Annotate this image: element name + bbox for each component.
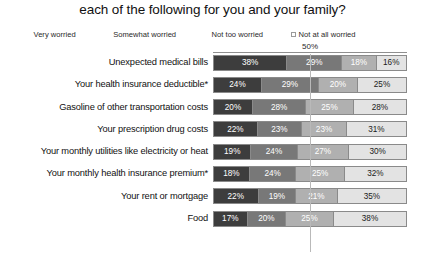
bar-row: Your monthly health insurance premium*18… [0, 165, 425, 182]
bar-segment-value: 17% [222, 214, 238, 223]
bar-segment: 38% [333, 212, 406, 226]
bar-segment-value: 22% [228, 192, 244, 201]
bar-segment-value: 20% [258, 214, 274, 223]
bar-segment: 35% [337, 189, 406, 203]
bar-segment-value: 38% [362, 214, 378, 223]
bar-segment-value: 21% [308, 192, 324, 201]
bar-segment-value: 24% [229, 80, 245, 89]
bar-segment-value: 23% [271, 125, 287, 134]
stacked-bar: 38%29%18%16% [213, 55, 407, 71]
bar-segment: 16% [376, 56, 406, 70]
bar-segment-value: 18% [351, 58, 367, 67]
legend-label: Somewhat worried [113, 30, 176, 39]
bar-segment: 23% [257, 122, 302, 136]
bar-segment: 18% [214, 167, 249, 181]
bar-segment-value: 16% [383, 58, 399, 67]
bar-segment-value: 31% [368, 125, 384, 134]
bar-segment: 22% [214, 189, 258, 203]
bar-row: Your rent or mortgage22%19%21%35% [0, 188, 425, 205]
bar-segment-value: 38% [242, 58, 258, 67]
plot-area: Unexpected medical bills38%29%18%16%Your… [0, 54, 425, 254]
bar-row-label: Your health insurance deductible* [0, 79, 213, 90]
bar-segment-value: 22% [227, 125, 243, 134]
bar-segment: 29% [261, 78, 318, 92]
bar-row: Unexpected medical bills38%29%18%16% [0, 54, 425, 71]
bar-segment: 23% [301, 122, 346, 136]
legend-label: Very worried [34, 30, 76, 39]
stacked-bar: 22%23%23%31% [213, 121, 407, 137]
legend-swatch-icon [106, 32, 111, 37]
legend-swatch-icon [291, 32, 296, 37]
bar-segment: 29% [286, 56, 341, 70]
bar-segment-value: 29% [306, 58, 322, 67]
bar-segment: 31% [346, 122, 406, 136]
bar-row-label: Your rent or mortgage [0, 191, 213, 202]
bar-segment: 25% [357, 78, 406, 92]
stacked-bar: 18%24%25%32% [213, 166, 407, 182]
bar-segment-value: 35% [364, 192, 380, 201]
bar-segment: 19% [214, 145, 250, 159]
bar-segment-value: 29% [282, 80, 298, 89]
bar-row: Food17%20%25%38% [0, 210, 425, 227]
bar-segment: 21% [295, 189, 337, 203]
stacked-bar: 19%24%27%30% [213, 144, 407, 160]
chart-legend: Very worried Somewhat worried Not too wo… [0, 28, 425, 41]
stacked-bar: 20%28%25%28% [213, 99, 407, 115]
bar-segment-value: 25% [312, 169, 328, 178]
legend-label: Not too worried [212, 30, 264, 39]
bar-row-label: Unexpected medical bills [0, 57, 213, 68]
bar-segment: 25% [305, 100, 353, 114]
bar-segment: 17% [214, 212, 247, 226]
bar-segment: 28% [353, 100, 406, 114]
legend-swatch-icon [204, 32, 209, 37]
stacked-bar: 22%19%21%35% [213, 188, 407, 204]
legend-item-not-too-worried: Not too worried [204, 30, 263, 39]
bar-segment-value: 28% [372, 103, 388, 112]
stacked-bar-chart: each of the following for you and your f… [0, 0, 425, 256]
bar-row-label: Your monthly health insurance premium* [0, 168, 213, 179]
bar-row-label: Food [0, 213, 213, 224]
bar-segment-value: 19% [224, 147, 240, 156]
bar-row-label: Gasoline of other transportation costs [0, 102, 213, 113]
stacked-bar: 24%29%20%25% [213, 77, 407, 93]
bar-segment-value: 23% [316, 125, 332, 134]
bar-segment-value: 20% [225, 103, 241, 112]
bar-segment: 25% [295, 167, 343, 181]
axis-top-rule [213, 52, 407, 53]
bar-segment: 25% [285, 212, 333, 226]
bar-segment: 20% [214, 100, 252, 114]
bar-segment: 30% [348, 145, 406, 159]
bar-segment: 28% [252, 100, 305, 114]
bar-rows: Unexpected medical bills38%29%18%16%Your… [0, 54, 425, 254]
bar-segment-value: 18% [223, 169, 239, 178]
bar-segment: 18% [341, 56, 375, 70]
bar-segment-value: 25% [321, 103, 337, 112]
bar-segment: 24% [214, 78, 261, 92]
bar-segment-value: 25% [301, 214, 317, 223]
legend-item-very-worried: Very worried [26, 30, 76, 39]
legend-item-not-at-all-worried: Not at all worried [291, 30, 355, 39]
chart-title: each of the following for you and your f… [0, 0, 425, 17]
bar-segment: 24% [250, 145, 296, 159]
bar-segment: 19% [258, 189, 296, 203]
bar-segment-value: 24% [266, 147, 282, 156]
bar-segment-value: 24% [264, 169, 280, 178]
bar-segment-value: 27% [315, 147, 331, 156]
bar-row-label: Your monthly utilities like electricity … [0, 146, 213, 157]
legend-label: Not at all worried [299, 30, 356, 39]
legend-item-somewhat-worried: Somewhat worried [106, 30, 176, 39]
bar-row: Your prescription drug costs22%23%23%31% [0, 121, 425, 138]
bar-segment: 20% [318, 78, 357, 92]
bar-segment: 20% [247, 212, 285, 226]
bar-segment-value: 30% [369, 147, 385, 156]
bar-segment-value: 20% [330, 80, 346, 89]
bar-segment: 22% [214, 122, 257, 136]
bar-segment-value: 25% [374, 80, 390, 89]
bar-row: Gasoline of other transportation costs20… [0, 99, 425, 116]
bar-segment-value: 32% [367, 169, 383, 178]
stacked-bar: 17%20%25%38% [213, 211, 407, 227]
bar-segment: 27% [297, 145, 349, 159]
x-axis-tick-50: 50% [302, 42, 318, 51]
legend-swatch-icon [26, 32, 31, 37]
bar-segment-value: 28% [271, 103, 287, 112]
